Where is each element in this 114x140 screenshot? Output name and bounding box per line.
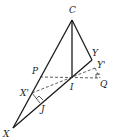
label-X-prime: X': [19, 88, 29, 98]
label-Q: Q: [100, 79, 108, 89]
label-J: J: [39, 104, 46, 114]
label-I: I: [69, 82, 74, 92]
label-C: C: [69, 5, 76, 15]
segment-XprimeJ: [32, 93, 40, 103]
segment-CY: [72, 20, 92, 60]
label-P: P: [31, 66, 39, 76]
label-Y-prime: Y': [97, 60, 105, 70]
label-X: X: [2, 129, 10, 139]
geometry-diagram: C X Y Y' I P Q X' J: [0, 0, 114, 140]
label-Y: Y: [92, 48, 99, 58]
segment-XprimeYprime: [32, 68, 95, 93]
